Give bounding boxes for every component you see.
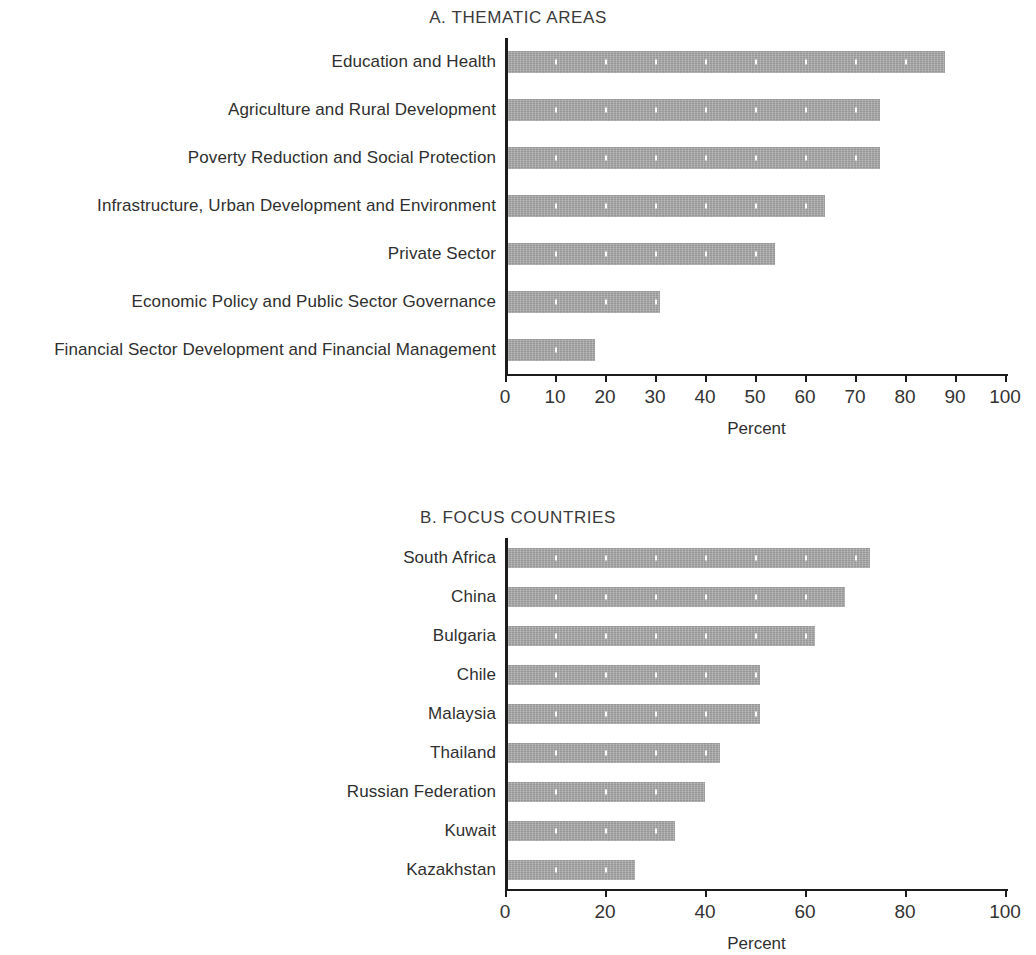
bar (505, 665, 760, 685)
category-label: Thailand (0, 743, 505, 763)
bar-row: Poverty Reduction and Social Protection (0, 134, 1036, 182)
bar-gridline-ticks (505, 243, 1005, 265)
bar-track (505, 655, 1005, 694)
bar (505, 626, 815, 646)
panel-b-x-tick-labels: 020406080100 (0, 901, 1036, 925)
category-label: South Africa (0, 548, 505, 568)
chart-panel-focus-countries: B. FOCUS COUNTRIES South AfricaChinaBulg… (0, 508, 1036, 889)
bar-row: Economic Policy and Public Sector Govern… (0, 278, 1036, 326)
category-label: Private Sector (0, 244, 505, 264)
bar (505, 743, 720, 763)
bar (505, 548, 870, 568)
x-axis-tick (855, 374, 857, 382)
x-axis-tick-label: 20 (594, 901, 615, 923)
bar (505, 704, 760, 724)
x-axis-tick-label: 0 (500, 386, 511, 408)
panel-a-y-axis (505, 38, 508, 374)
x-axis-tick-label: 100 (989, 386, 1021, 408)
bar-gridline-ticks (505, 99, 1005, 121)
panel-a-title: A. THEMATIC AREAS (0, 8, 1036, 28)
bar-track (505, 326, 1005, 374)
x-axis-tick (1005, 374, 1007, 382)
bar-track (505, 577, 1005, 616)
x-axis-tick (905, 889, 907, 897)
bar (505, 291, 660, 313)
bar-row: Russian Federation (0, 772, 1036, 811)
x-axis-tick-label: 40 (694, 386, 715, 408)
bar-track (505, 694, 1005, 733)
bar-track (505, 86, 1005, 134)
x-axis-tick (755, 374, 757, 382)
bar-track (505, 811, 1005, 850)
category-label: Malaysia (0, 704, 505, 724)
x-axis-tick (805, 374, 807, 382)
panel-b-bar-rows: South AfricaChinaBulgariaChileMalaysiaTh… (0, 538, 1036, 889)
x-axis-tick-label: 100 (989, 901, 1021, 923)
bar-row: China (0, 577, 1036, 616)
bar-track (505, 616, 1005, 655)
category-label: Infrastructure, Urban Development and En… (0, 196, 505, 216)
x-axis-tick (805, 889, 807, 897)
category-label: Poverty Reduction and Social Protection (0, 148, 505, 168)
bar-track (505, 538, 1005, 577)
category-label: China (0, 587, 505, 607)
bar (505, 99, 880, 121)
x-axis-tick-label: 10 (544, 386, 565, 408)
x-axis-tick (1005, 889, 1007, 897)
bar-track (505, 230, 1005, 278)
x-axis-tick-label: 0 (500, 901, 511, 923)
x-axis-tick (505, 374, 507, 382)
panel-a-plot-area: Education and HealthAgriculture and Rura… (0, 38, 1036, 374)
x-axis-tick (655, 374, 657, 382)
panel-b-x-axis-title: Percent (505, 934, 1008, 954)
x-axis-tick-label: 70 (844, 386, 865, 408)
bar-row: Kazakhstan (0, 850, 1036, 889)
bar-row: South Africa (0, 538, 1036, 577)
x-axis-tick (705, 889, 707, 897)
x-axis-tick-label: 80 (894, 386, 915, 408)
bar (505, 587, 845, 607)
x-axis-tick (555, 374, 557, 382)
panel-a-x-tick-labels: 0102030405060708090100 (0, 386, 1036, 410)
bar-gridline-ticks (505, 195, 1005, 217)
bar (505, 821, 675, 841)
bar-row: Agriculture and Rural Development (0, 86, 1036, 134)
bar-gridline-ticks (505, 704, 1005, 724)
bar-track (505, 733, 1005, 772)
panel-a-x-axis (505, 374, 1008, 376)
category-label: Agriculture and Rural Development (0, 100, 505, 120)
bar-row: Chile (0, 655, 1036, 694)
x-axis-tick (705, 374, 707, 382)
x-axis-tick-label: 60 (794, 386, 815, 408)
bar-track (505, 278, 1005, 326)
panel-a-x-axis-title: Percent (505, 419, 1008, 439)
category-label: Economic Policy and Public Sector Govern… (0, 292, 505, 312)
category-label: Financial Sector Development and Financi… (0, 340, 505, 360)
category-label: Chile (0, 665, 505, 685)
bar-gridline-ticks (505, 626, 1005, 646)
bar-row: Infrastructure, Urban Development and En… (0, 182, 1036, 230)
x-axis-tick-label: 30 (644, 386, 665, 408)
bar-row: Bulgaria (0, 616, 1036, 655)
bar-row: Education and Health (0, 38, 1036, 86)
panel-b-title: B. FOCUS COUNTRIES (0, 508, 1036, 528)
x-axis-tick-label: 80 (894, 901, 915, 923)
category-label: Education and Health (0, 52, 505, 72)
bar-track (505, 134, 1005, 182)
bar-gridline-ticks (505, 782, 1005, 802)
bar-gridline-ticks (505, 587, 1005, 607)
bar-track (505, 772, 1005, 811)
bar-gridline-ticks (505, 743, 1005, 763)
bar-row: Private Sector (0, 230, 1036, 278)
bar-gridline-ticks (505, 339, 1005, 361)
x-axis-tick (955, 374, 957, 382)
panel-a-bar-rows: Education and HealthAgriculture and Rura… (0, 38, 1036, 374)
bar (505, 51, 945, 73)
bar-gridline-ticks (505, 291, 1005, 313)
panel-b-x-axis (505, 889, 1008, 891)
chart-panel-thematic-areas: A. THEMATIC AREAS Education and HealthAg… (0, 8, 1036, 374)
bar (505, 339, 595, 361)
x-axis-tick (605, 374, 607, 382)
x-axis-tick (605, 889, 607, 897)
panel-b-y-axis (505, 538, 508, 889)
